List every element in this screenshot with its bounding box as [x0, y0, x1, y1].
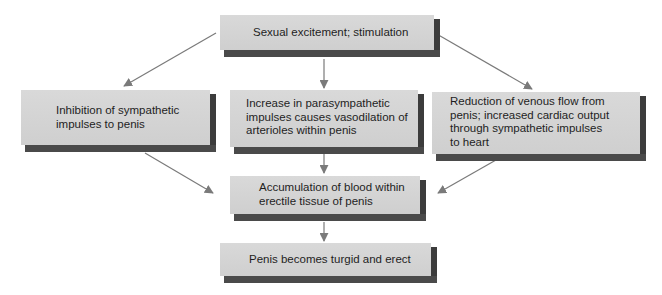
arrow-stimulus-to-venous — [435, 33, 532, 89]
box-shadow — [25, 145, 216, 152]
node-erection: Penis becomes turgid and erect — [220, 243, 431, 276]
box-shadow — [224, 276, 437, 283]
box-shadow — [234, 214, 426, 221]
box-shadow — [418, 94, 424, 147]
box-shadow — [420, 180, 426, 214]
flowchart-diagram: Sexual excitement; stimulation Inhibitio… — [0, 0, 662, 295]
node-parasympathetic-vasodilation: Increase in parasympathetic impulses cau… — [230, 90, 418, 147]
node-label: Sexual excitement; stimulation — [253, 26, 408, 40]
arrow-inhibition-to-accumulation — [145, 153, 213, 193]
box-shadow — [234, 147, 424, 154]
box-shadow — [224, 50, 440, 57]
node-label: Penis becomes turgid and erect — [249, 253, 411, 267]
arrow-venous-to-accumulation — [438, 156, 503, 193]
box-shadow — [640, 96, 646, 154]
box-shadow — [436, 154, 646, 161]
node-stimulation: Sexual excitement; stimulation — [220, 15, 434, 50]
node-blood-accumulation: Accumulation of blood within erectile ti… — [230, 176, 420, 214]
node-inhibition-sympathetic: Inhibition of sympathetic impulses to pe… — [21, 90, 210, 145]
node-label: Reduction of venous flow from penis; inc… — [450, 95, 609, 149]
node-label: Inhibition of sympathetic impulses to pe… — [56, 104, 179, 131]
arrow-stimulus-to-inhibition — [124, 33, 216, 86]
box-shadow — [434, 19, 440, 50]
node-label: Accumulation of blood within erectile ti… — [259, 181, 405, 208]
box-shadow — [210, 94, 216, 145]
node-label: Increase in parasympathetic impulses cau… — [246, 97, 408, 138]
node-venous-flow-reduction: Reduction of venous flow from penis; inc… — [432, 92, 640, 154]
box-shadow — [431, 247, 437, 276]
